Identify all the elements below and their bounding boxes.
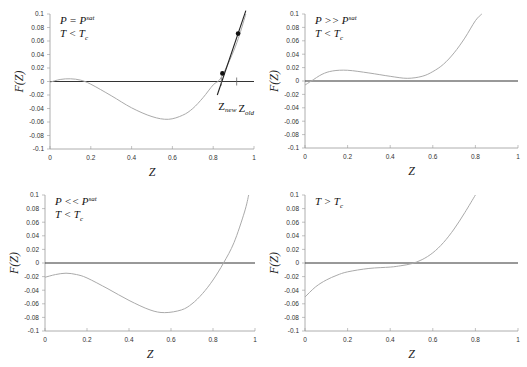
x-tick-label: 0.4 <box>127 154 136 161</box>
z-marker-subscript: old <box>245 109 254 117</box>
x-tick-label: 0.8 <box>471 336 480 343</box>
data-point <box>220 71 225 76</box>
y-tick-label: -0.08 <box>284 131 299 138</box>
y-tick-label: -0.02 <box>284 273 299 280</box>
y-tick-label: 0 <box>295 259 299 266</box>
x-tick-label: 0.6 <box>166 336 175 343</box>
chart-panel-3: 0.10.080.060.040.020-0.02-0.04-0.06-0.08… <box>7 191 257 361</box>
superscript: sat <box>89 195 98 203</box>
condition-annotation: P >> Psat <box>314 14 358 26</box>
y-tick-label: -0.02 <box>24 273 39 280</box>
y-tick-label: -0.08 <box>29 132 44 139</box>
y-tick-label: 0 <box>295 77 299 84</box>
condition-annotation: P = Psat <box>59 14 95 26</box>
chart-panel-4: 0.10.080.060.040.020-0.02-0.04-0.06-0.08… <box>267 191 520 361</box>
y-tick-label: 0.1 <box>290 10 299 17</box>
y-tick-label: 0.04 <box>26 232 39 239</box>
y-tick-label: 0.1 <box>290 191 299 198</box>
chart-grid: 0.10.080.060.040.020-0.02-0.04-0.06-0.08… <box>0 0 527 367</box>
x-tick-label: 0.4 <box>386 336 395 343</box>
y-axis-label: F(Z) <box>267 252 281 275</box>
subscript: c <box>80 215 84 223</box>
y-tick-label: -0.04 <box>284 287 299 294</box>
x-tick-label: 0 <box>303 336 307 343</box>
x-tick-label: 1 <box>516 153 520 160</box>
superscript: sat <box>349 14 358 22</box>
x-tick-label: 0.4 <box>386 153 395 160</box>
x-axis-label: Z <box>149 165 156 179</box>
y-tick-label: -0.08 <box>24 314 39 321</box>
y-tick-label: -0.1 <box>28 327 40 334</box>
y-tick-label: 0.04 <box>286 51 299 58</box>
x-axis-label: Z <box>147 347 154 361</box>
y-tick-label: 0.04 <box>31 51 44 58</box>
y-tick-label: -0.06 <box>284 300 299 307</box>
data-point <box>236 31 241 36</box>
x-tick-label: 0 <box>43 336 47 343</box>
y-tick-label: 0 <box>40 78 44 85</box>
x-tick-label: 1 <box>253 336 257 343</box>
y-tick-label: -0.1 <box>288 327 300 334</box>
x-tick-label: 0.8 <box>209 154 218 161</box>
condition-annotation: T > Tc <box>315 195 344 210</box>
x-tick-label: 1 <box>252 154 256 161</box>
y-tick-label: -0.06 <box>24 300 39 307</box>
condition-annotation: T < Tc <box>315 27 344 42</box>
y-tick-label: -0.1 <box>288 144 300 151</box>
y-tick-label: -0.04 <box>24 287 39 294</box>
y-tick-label: 0.02 <box>286 246 299 253</box>
z-marker-labels: ZnewZold <box>218 100 254 117</box>
subscript: c <box>85 34 89 42</box>
condition-annotation: P << Psat <box>54 195 98 207</box>
y-tick-label: -0.08 <box>284 314 299 321</box>
x-tick-label: 0.6 <box>428 336 437 343</box>
y-axis-label: F(Z) <box>7 252 21 275</box>
y-tick-label: -0.1 <box>33 145 45 152</box>
x-tick-label: 0.2 <box>82 336 91 343</box>
y-tick-label: 0.08 <box>286 205 299 212</box>
y-tick-label: -0.02 <box>29 91 44 98</box>
y-tick-label: 0.1 <box>30 191 39 198</box>
subscript: c <box>340 202 344 210</box>
x-tick-label: 0 <box>48 154 52 161</box>
y-tick-label: 0.06 <box>26 219 39 226</box>
x-tick-label: 0.2 <box>343 336 352 343</box>
condition-annotation: T < Tc <box>55 208 84 223</box>
y-tick-label: -0.06 <box>284 118 299 125</box>
z-marker-subscript: new <box>225 106 237 114</box>
x-tick-label: 0.2 <box>86 154 95 161</box>
y-tick-label: 0 <box>35 259 39 266</box>
y-tick-label: -0.02 <box>284 91 299 98</box>
subscript: c <box>340 34 344 42</box>
y-tick-label: 0.08 <box>26 205 39 212</box>
y-axis-label: F(Z) <box>267 70 281 93</box>
x-tick-label: 0 <box>303 153 307 160</box>
y-tick-label: 0.08 <box>31 24 44 31</box>
y-axis-label: F(Z) <box>12 71 26 94</box>
superscript: sat <box>86 14 95 22</box>
x-tick-label: 0.8 <box>208 336 217 343</box>
y-tick-label: -0.04 <box>29 105 44 112</box>
y-tick-label: 0.08 <box>286 24 299 31</box>
y-tick-label: 0.02 <box>26 246 39 253</box>
series-line <box>305 195 475 297</box>
y-tick-label: 0.02 <box>31 64 44 71</box>
y-tick-label: -0.06 <box>29 118 44 125</box>
y-tick-label: 0.1 <box>35 10 44 17</box>
x-tick-label: 0.6 <box>428 153 437 160</box>
x-axis-label: Z <box>408 347 415 361</box>
y-tick-label: 0.06 <box>31 37 44 44</box>
x-tick-label: 0.4 <box>124 336 133 343</box>
x-tick-label: 0.6 <box>168 154 177 161</box>
x-tick-label: 0.2 <box>343 153 352 160</box>
y-tick-label: 0.04 <box>286 232 299 239</box>
y-tick-label: 0.02 <box>286 64 299 71</box>
y-tick-label: 0.06 <box>286 219 299 226</box>
chart-panel-1: 0.10.080.060.040.020-0.02-0.04-0.06-0.08… <box>12 10 256 179</box>
x-tick-label: 0.8 <box>471 153 480 160</box>
x-tick-label: 1 <box>516 336 520 343</box>
x-axis-label: Z <box>408 164 415 178</box>
condition-annotation: T < Tc <box>60 27 89 42</box>
y-tick-label: -0.04 <box>284 104 299 111</box>
y-tick-label: 0.06 <box>286 37 299 44</box>
